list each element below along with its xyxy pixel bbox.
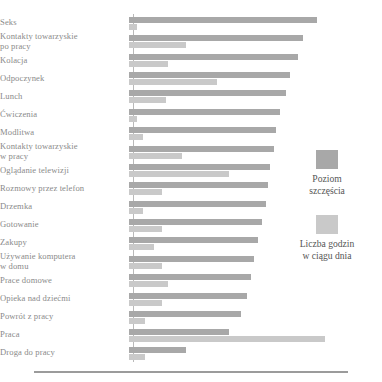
- bar-pair: [126, 88, 382, 106]
- category-label: Praca: [0, 330, 126, 340]
- bar-happiness: [129, 256, 254, 262]
- bar-pair: [126, 124, 382, 142]
- chart-row: Odpoczynek: [0, 70, 382, 88]
- bar-happiness: [129, 164, 270, 170]
- bar-hours: [129, 42, 186, 48]
- bar-happiness: [129, 54, 298, 60]
- legend-swatch-happiness-icon: [316, 150, 338, 169]
- bar-hours: [129, 97, 166, 103]
- legend-item-hours: Liczba godzin w ciągu dnia: [272, 215, 382, 262]
- category-label: Używanie komputera w domu: [0, 252, 126, 272]
- legend-label-hours: Liczba godzin w ciągu dnia: [272, 238, 382, 262]
- bar-hours: [129, 244, 154, 250]
- chart-row: Opieka nad dziećmi: [0, 290, 382, 308]
- category-label: Gotowanie: [0, 220, 126, 230]
- category-label: Zakupy: [0, 238, 126, 248]
- bar-happiness: [129, 329, 229, 335]
- chart-row: Powrót z pracy: [0, 308, 382, 326]
- bar-hours: [129, 226, 162, 232]
- category-label: Seks: [0, 18, 126, 28]
- bar-pair: [126, 14, 382, 32]
- bar-hours: [129, 336, 325, 342]
- bar-pair: [126, 106, 382, 124]
- chart-row: Praca: [0, 326, 382, 344]
- bar-hours: [129, 208, 143, 214]
- bar-happiness: [129, 219, 262, 225]
- category-label: Rozmowy przez telefon: [0, 184, 126, 194]
- bar-hours: [129, 153, 182, 159]
- bar-pair: [126, 326, 382, 344]
- chart-row: Seks: [0, 14, 382, 32]
- bar-hours: [129, 116, 137, 122]
- chart-row: Lunch: [0, 88, 382, 106]
- category-label: Ćwiczenia: [0, 110, 126, 120]
- bar-happiness: [129, 127, 276, 133]
- bar-hours: [129, 171, 229, 177]
- bar-happiness: [129, 347, 186, 353]
- bar-happiness: [129, 146, 274, 152]
- chart-row: Ćwiczenia: [0, 106, 382, 124]
- bar-happiness: [129, 237, 258, 243]
- footer-divider: [34, 371, 348, 373]
- chart-row: Kolacja: [0, 52, 382, 70]
- chart-row: Droga do pracy: [0, 344, 382, 362]
- bar-hours: [129, 281, 168, 287]
- bar-pair: [126, 70, 382, 88]
- category-label: Odpoczynek: [0, 74, 126, 84]
- category-label: Kontakty towarzyskie w pracy: [0, 142, 126, 162]
- bar-happiness: [129, 311, 241, 317]
- legend-label-happiness: Poziom szczęścia: [272, 173, 382, 197]
- legend-spacer: [272, 199, 382, 215]
- chart-container: SeksKontakty towarzyskie po pracyKolacja…: [0, 0, 382, 382]
- bar-hours: [129, 189, 162, 195]
- bar-hours: [129, 79, 217, 85]
- bar-hours: [129, 300, 162, 306]
- bar-pair: [126, 52, 382, 70]
- bar-happiness: [129, 90, 286, 96]
- chart-row: Modlitwa: [0, 124, 382, 142]
- bar-happiness: [129, 72, 290, 78]
- category-label: Prace domowe: [0, 276, 126, 286]
- bar-pair: [126, 344, 382, 362]
- bar-pair: [126, 272, 382, 290]
- chart-row: Kontakty towarzyskie po pracy: [0, 32, 382, 52]
- category-label: Modlitwa: [0, 128, 126, 138]
- category-label: Oglądanie telewizji: [0, 166, 126, 176]
- category-label: Drzemka: [0, 202, 126, 212]
- bar-happiness: [129, 293, 247, 299]
- bar-hours: [129, 61, 168, 67]
- chart-legend: Poziom szczęścia Liczba godzin w ciągu d…: [272, 150, 382, 264]
- bar-happiness: [129, 274, 251, 280]
- bar-hours: [129, 24, 137, 30]
- legend-item-happiness: Poziom szczęścia: [272, 150, 382, 197]
- bar-happiness: [129, 109, 280, 115]
- legend-swatch-hours-icon: [316, 215, 338, 234]
- category-label: Opieka nad dziećmi: [0, 294, 126, 304]
- bar-hours: [129, 354, 145, 360]
- bar-pair: [126, 32, 382, 52]
- category-label: Droga do pracy: [0, 348, 126, 358]
- bar-pair: [126, 290, 382, 308]
- bar-happiness: [129, 201, 266, 207]
- category-label: Powrót z pracy: [0, 312, 126, 322]
- category-label: Kolacja: [0, 56, 126, 66]
- bar-hours: [129, 134, 143, 140]
- category-label: Lunch: [0, 92, 126, 102]
- bar-pair: [126, 308, 382, 326]
- category-label: Kontakty towarzyskie po pracy: [0, 32, 126, 52]
- bar-happiness: [129, 35, 303, 41]
- chart-row: Prace domowe: [0, 272, 382, 290]
- bar-happiness: [129, 17, 317, 23]
- bar-happiness: [129, 182, 268, 188]
- bar-hours: [129, 318, 145, 324]
- bar-hours: [129, 263, 162, 269]
